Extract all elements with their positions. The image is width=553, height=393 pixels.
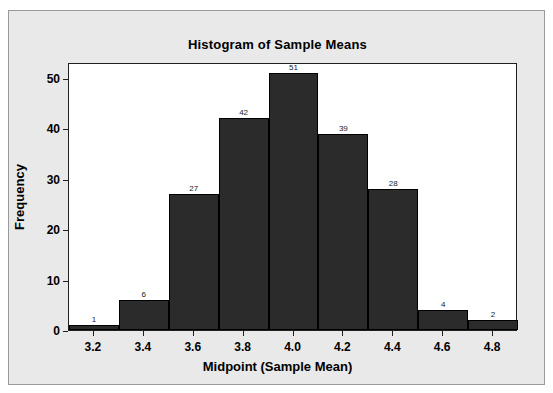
x-axis-tick [193,331,194,336]
bar-value-label: 2 [491,310,495,319]
bars-layer: 16274251392842 [69,64,516,330]
histogram-bar [418,310,468,330]
bar-value-label: 42 [239,108,248,117]
x-axis-tick-label: 3.8 [234,340,251,354]
x-axis-tick-label: 4.4 [384,340,401,354]
y-axis-tick [63,129,68,130]
x-axis-tick [342,331,343,336]
y-axis-tick-label: 50 [34,72,60,86]
bar-value-label: 51 [289,63,298,72]
y-axis-tick [63,180,68,181]
y-axis-tick-label: 10 [34,274,60,288]
y-axis-tick-label: 0 [34,324,60,338]
y-axis-tick-label: 30 [34,173,60,187]
bar-value-label: 39 [339,124,348,133]
x-axis-tick [442,331,443,336]
x-axis-label: Midpoint (Sample Mean) [9,359,546,374]
bar-value-label: 28 [389,179,398,188]
y-axis-label: Frequency [12,164,27,230]
bar-value-label: 27 [189,184,198,193]
x-axis-tick-label: 3.2 [85,340,102,354]
y-axis-tick-label: 40 [34,122,60,136]
x-axis-tick-label: 4.6 [434,340,451,354]
histogram-bar [468,320,518,330]
histogram-bar [318,134,368,330]
x-axis-tick [243,331,244,336]
plot-area: 16274251392842 [68,63,517,331]
x-axis-tick [492,331,493,336]
histogram-bar [219,118,269,330]
histogram-bar [269,73,319,330]
x-axis-tick-label: 3.6 [184,340,201,354]
histogram-figure: Histogram of Sample Means Frequency Midp… [0,0,553,393]
x-axis-tick [392,331,393,336]
x-axis-tick [293,331,294,336]
x-axis-tick-label: 3.4 [134,340,151,354]
histogram-bar [119,300,169,330]
chart-panel: Histogram of Sample Means Frequency Midp… [8,10,545,385]
y-axis-tick-label: 20 [34,223,60,237]
x-axis-tick-label: 4.8 [484,340,501,354]
y-axis-tick [63,331,68,332]
histogram-bar [169,194,219,330]
histogram-bar [69,325,119,330]
bar-value-label: 1 [92,315,96,324]
x-axis-tick-label: 4.0 [284,340,301,354]
bar-value-label: 6 [142,290,146,299]
y-axis-tick [63,79,68,80]
bar-value-label: 4 [441,300,445,309]
y-axis-tick [63,281,68,282]
x-axis-tick [143,331,144,336]
x-axis-tick-label: 4.2 [334,340,351,354]
page-title: Histogram of Sample Means [9,37,546,52]
histogram-bar [368,189,418,330]
x-axis-tick [93,331,94,336]
y-axis-tick [63,230,68,231]
